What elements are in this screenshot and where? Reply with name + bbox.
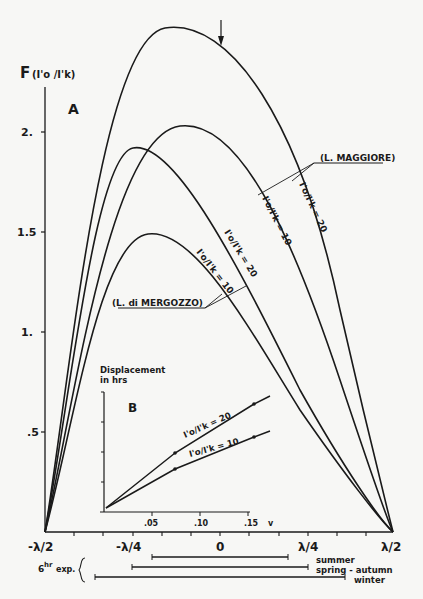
- inset-x-var: v: [268, 519, 274, 528]
- y-tick-0.5: .5: [27, 426, 39, 439]
- label-mergozzo: (L. di MERGOZZO): [112, 298, 203, 308]
- inset-x-tick-10: .10: [194, 519, 209, 528]
- inset-line-10: [106, 431, 270, 508]
- inset-x-tick-05: .05: [144, 519, 159, 528]
- inset-x-tick-15: .15: [244, 519, 259, 528]
- figure: 2. 1.5 1. .5 F (I'o /I'k) A -λ/2 -λ/4 0 …: [0, 0, 423, 599]
- label-mergozzo-20: I'o/I'k = 20: [222, 228, 259, 279]
- y-tick-1.5: 1.5: [17, 226, 37, 239]
- y-tick-2: 2.: [21, 126, 33, 139]
- down-arrow-icon: [218, 20, 224, 46]
- panel-a-label: A: [68, 101, 79, 117]
- label-summer: summer: [316, 555, 356, 565]
- exposure-ranges: 6 hr exp. summer spring - autumn winter: [38, 554, 393, 585]
- x-tick-minus-half-lambda: -λ/2: [28, 540, 53, 554]
- panel-b-label: B: [128, 401, 137, 415]
- label-maggiore-20: I'o/I'k = 20: [297, 181, 329, 234]
- brace-icon: [79, 558, 85, 582]
- mergozzo-leader-10: [205, 294, 222, 308]
- y-axis-title: F: [20, 64, 30, 82]
- inset-label-20: I'o/I'k = 20: [182, 410, 233, 440]
- inset-ylabel-line2: in hrs: [100, 375, 127, 385]
- y-tick-1: 1.: [21, 326, 33, 339]
- curve-mergozzo-20: [45, 148, 393, 532]
- label-maggiore-10: I'o/I'k = 10: [260, 194, 293, 247]
- inset-ylabel-line1: Displacement: [100, 365, 165, 375]
- x-tick-minus-quarter-lambda: -λ/4: [116, 540, 141, 554]
- x-tick-quarter-lambda: λ/4: [298, 540, 318, 554]
- label-winter: winter: [354, 575, 386, 585]
- x-tick-half-lambda: λ/2: [381, 540, 401, 554]
- x-tick-zero: 0: [216, 540, 224, 554]
- exp-suffix: exp.: [56, 565, 75, 574]
- inset-b: Displacement in hrs .05 .10 .15 v B I'o/…: [100, 365, 274, 528]
- label-spring-autumn: spring - autumn: [316, 565, 393, 575]
- exp-sup: hr: [44, 561, 53, 569]
- y-axis-subtitle: (I'o /I'k): [32, 69, 75, 80]
- label-maggiore: (L. MAGGIORE): [320, 153, 395, 163]
